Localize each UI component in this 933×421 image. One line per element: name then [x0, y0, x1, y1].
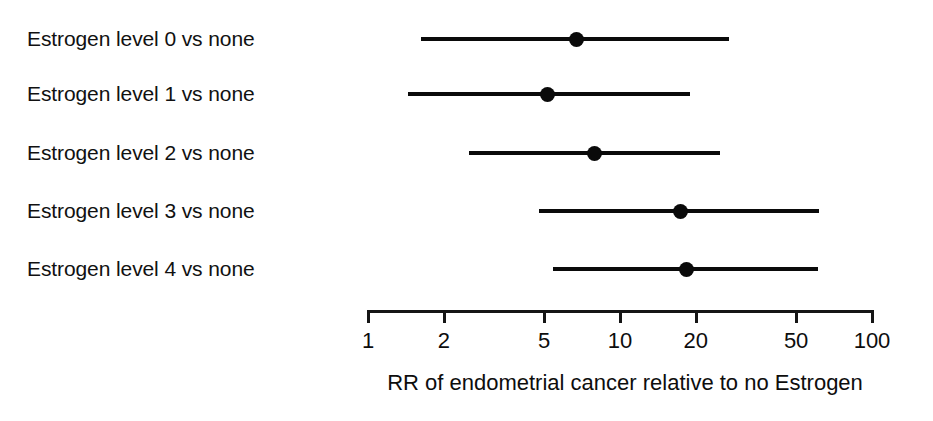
row-label-2: Estrogen level 2 vs none	[27, 142, 255, 163]
row-label-0: Estrogen level 0 vs none	[27, 28, 255, 49]
x-axis-tick-20	[695, 310, 698, 323]
x-axis-tick-1	[367, 310, 370, 323]
x-axis-title: RR of endometrial cancer relative to no …	[387, 371, 863, 395]
x-axis-tick-10	[619, 310, 622, 323]
x-axis-tick-label-100: 100	[854, 330, 891, 352]
row-label-1: Estrogen level 1 vs none	[27, 83, 255, 104]
x-axis-tick-50	[795, 310, 798, 323]
x-axis-tick-100	[871, 310, 874, 323]
x-axis-tick-label-5: 5	[538, 330, 550, 352]
point-estimate-marker-4	[679, 262, 694, 277]
row-label-4: Estrogen level 4 vs none	[27, 258, 255, 279]
row-label-3: Estrogen level 3 vs none	[27, 200, 255, 221]
x-axis-tick-label-10: 10	[608, 330, 632, 352]
x-axis-tick-label-1: 1	[362, 330, 374, 352]
point-estimate-marker-2	[587, 146, 602, 161]
point-estimate-marker-3	[673, 204, 688, 219]
x-axis-tick-label-20: 20	[684, 330, 708, 352]
x-axis-tick-5	[543, 310, 546, 323]
x-axis-tick-label-50: 50	[784, 330, 808, 352]
x-axis-tick-label-2: 2	[438, 330, 450, 352]
point-estimate-marker-1	[540, 87, 555, 102]
x-axis-tick-2	[443, 310, 446, 323]
forest-plot-figure: Estrogen level 0 vs noneEstrogen level 1…	[0, 0, 933, 421]
point-estimate-marker-0	[569, 32, 584, 47]
